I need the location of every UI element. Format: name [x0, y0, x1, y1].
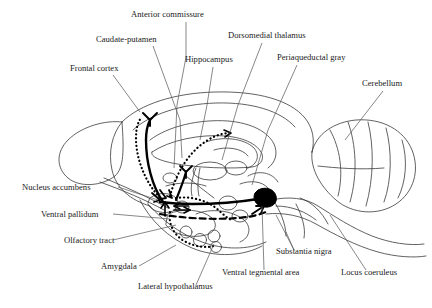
- ventral-tegmental-area-blob: [254, 188, 276, 207]
- mesolimbic-solid-pathway: [160, 199, 258, 204]
- amygdala-nucleus: [194, 234, 207, 247]
- label-frontal-cortex: Frontal cortex: [70, 63, 119, 73]
- leader-periaqueductal-gray: [252, 65, 297, 185]
- label-locus-coeruleus: Locus coeruleus: [341, 267, 398, 277]
- label-lateral-hypothalamus: Lateral hypothalamus: [138, 281, 213, 291]
- label-olfactory-tract: Olfactory tract: [64, 235, 115, 245]
- label-substantia-nigra: Substantia nigra: [276, 246, 332, 256]
- corpus-callosum: [150, 121, 276, 168]
- cerebellum: [312, 120, 416, 212]
- hippocampus-shape: [206, 139, 257, 168]
- label-hippocampus: Hippocampus: [185, 54, 233, 64]
- brainstem-inner: [276, 206, 316, 220]
- leader-ventral-tegmental-area: [262, 206, 264, 270]
- leader-substantia-nigra: [276, 215, 294, 250]
- label-nucleus-accumbens: Nucleus accumbens: [22, 182, 91, 192]
- cerebellar-peduncle: [300, 198, 328, 224]
- colliculus: [248, 173, 278, 182]
- anterior-commissure-shape: [166, 183, 206, 186]
- cerebellum-folia: [366, 122, 372, 206]
- label-ventral-pallidum: Ventral pallidum: [41, 209, 99, 219]
- cerebellum-folia: [398, 140, 405, 198]
- cerebellum-folia: [330, 130, 341, 196]
- leader-cerebellum: [345, 91, 383, 140]
- hypothalamus-outline: [196, 211, 249, 242]
- interpeduncular-nucleus: [232, 210, 248, 222]
- cortex-inner-line: [133, 103, 295, 130]
- nigrostriatal-terminal-y: [180, 166, 192, 178]
- leader-frontal-cortex: [113, 75, 140, 112]
- brain-diagram: Anterior commissureCaudate-putamenDorsom…: [0, 0, 432, 308]
- leader-amygdala: [139, 245, 176, 266]
- pallidal-dashed-pathway: [160, 211, 268, 219]
- leader-locus-coeruleus: [330, 215, 366, 270]
- periaqueductal-gray-shape: [240, 182, 268, 188]
- amygdala-nucleus: [180, 226, 192, 238]
- internal-capsule: [186, 176, 214, 198]
- frontal-cortex-terminal-y: [143, 113, 157, 126]
- label-dorsomedial-thalamus: Dorsomedial thalamus: [228, 30, 306, 40]
- ventral-pallidum-shape: [166, 210, 215, 236]
- fornix-2: [198, 168, 200, 196]
- label-periaqueductal-gray: Periaqueductal gray: [277, 52, 346, 62]
- label-anterior-commissure: Anterior commissure: [131, 9, 204, 19]
- cerebellum-folia: [318, 166, 384, 169]
- label-amygdala: Amygdala: [101, 261, 137, 271]
- brainstem: [272, 198, 424, 245]
- hypothalamic-nucleus: [208, 230, 220, 242]
- label-caudate-putamen: Caudate-putamen: [96, 34, 157, 44]
- cerebellum-folia: [348, 122, 355, 202]
- label-cerebellum: Cerebellum: [362, 78, 402, 88]
- label-ventral-tegmental-area: Ventral tegmental area: [222, 267, 299, 277]
- hippocampus-inner: [214, 148, 248, 156]
- cerebellum-folia: [384, 128, 390, 202]
